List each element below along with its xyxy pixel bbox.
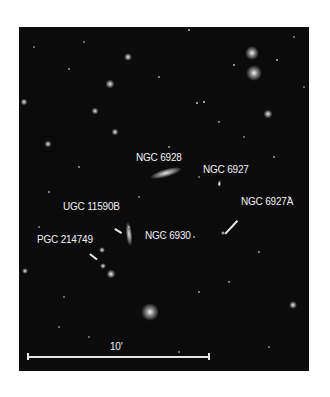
star	[198, 176, 200, 178]
bright-star	[264, 110, 273, 119]
star	[268, 346, 270, 348]
bright-star	[21, 99, 28, 106]
bright-star	[45, 141, 52, 148]
label-ngc6930: NGC 6930	[145, 231, 191, 241]
star	[168, 146, 170, 148]
label-ngc6927: NGC 6927	[203, 165, 249, 175]
label-pgc214749: PGC 214749	[37, 235, 93, 245]
star	[198, 291, 200, 293]
bright-star	[22, 268, 28, 274]
star	[33, 46, 35, 48]
bright-star	[99, 247, 105, 253]
galaxy-ngc6930	[125, 222, 133, 246]
star	[193, 236, 195, 238]
star	[83, 41, 85, 43]
star	[178, 351, 180, 353]
bright-star	[100, 263, 106, 269]
label-ugc11590b: UGC 11590B	[63, 202, 120, 212]
bright-star	[141, 303, 159, 321]
star	[196, 102, 198, 104]
star	[293, 36, 295, 38]
bright-star	[107, 270, 116, 279]
star	[138, 196, 140, 198]
bright-star	[124, 53, 132, 61]
scale-bar	[28, 356, 209, 358]
star	[158, 76, 160, 78]
star	[63, 296, 65, 298]
scale-bar-label: 10′	[110, 342, 122, 352]
galaxy-ngc6927	[218, 180, 221, 187]
star	[303, 86, 305, 88]
bright-star	[92, 108, 99, 115]
star	[78, 166, 80, 168]
label-ngc6927a: NGC 6927A	[241, 197, 293, 207]
bright-star	[246, 65, 262, 81]
star	[276, 59, 278, 61]
star	[228, 281, 230, 283]
bright-star	[289, 301, 297, 309]
star	[258, 251, 260, 253]
bright-star	[245, 46, 259, 60]
star	[88, 336, 90, 338]
label-ngc6928: NGC 6928	[136, 153, 182, 163]
star	[68, 68, 70, 70]
bright-star	[112, 129, 119, 136]
star	[38, 226, 40, 228]
star	[58, 326, 60, 328]
star	[243, 136, 245, 138]
galaxy-ngc6928	[150, 165, 183, 182]
scale-bar-right-tick	[208, 353, 210, 360]
star	[188, 29, 190, 31]
star	[233, 64, 235, 66]
star	[273, 156, 275, 158]
bright-star	[106, 80, 115, 89]
scale-bar-left-tick	[27, 353, 29, 360]
star	[218, 121, 220, 123]
star	[48, 191, 50, 193]
star	[203, 101, 205, 103]
